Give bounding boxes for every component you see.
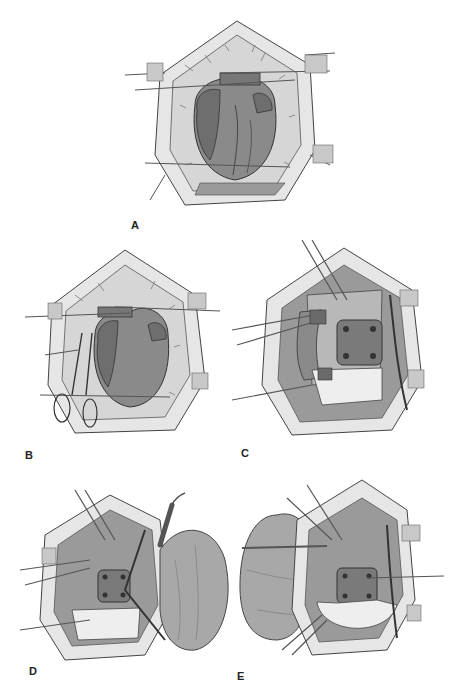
panel-e-illustration [237,470,462,670]
panel-a [125,15,350,215]
panel-d-label: D [29,665,37,677]
panel-b-illustration [20,245,230,445]
panel-a-illustration [125,15,350,215]
panel-b [20,245,230,445]
panel-c [232,240,460,445]
panel-c-label: C [241,447,249,459]
panel-c-illustration [232,240,460,445]
panel-e [237,470,462,670]
panel-b-label: B [25,449,33,461]
panel-d-illustration [20,490,240,665]
surgical-figure: A B [0,0,462,700]
panel-e-label: E [237,670,244,682]
panel-a-label: A [131,219,139,231]
panel-d [20,490,240,665]
